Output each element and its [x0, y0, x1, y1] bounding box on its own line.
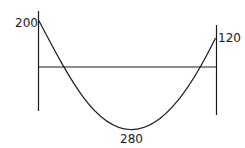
min-value-label: 280 — [120, 132, 143, 146]
left-value-label: 200 — [15, 16, 38, 30]
right-value-label: 120 — [218, 31, 241, 45]
moment-curve — [39, 20, 216, 130]
diagram-canvas: 200 120 280 — [0, 0, 245, 148]
